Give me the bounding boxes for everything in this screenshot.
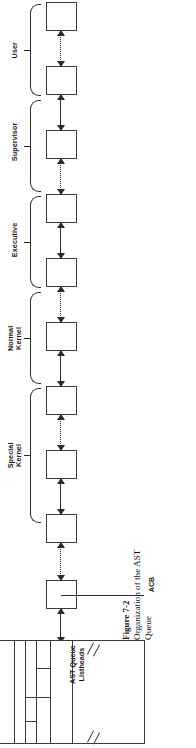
figure-caption-text: Organization of the AST Queue — [132, 532, 154, 640]
arrow-down-icon — [57, 253, 65, 259]
arrow-up-icon — [57, 286, 65, 292]
connector-solid-to-table — [60, 609, 63, 642]
connector-solid — [60, 351, 63, 386]
group-label-user: User — [11, 35, 19, 65]
break-mark-icon — [93, 733, 100, 745]
figure-caption-number: Figure 7-2 — [121, 532, 132, 640]
connector-dotted — [60, 31, 63, 66]
arrow-up-icon — [57, 158, 65, 164]
group-brace-normal-kernel — [30, 292, 41, 384]
group-brace-supervisor — [30, 100, 41, 192]
arrow-up-icon — [57, 478, 65, 484]
acb-node-box — [46, 258, 77, 287]
table-divider — [14, 641, 15, 743]
acb-node-box — [46, 322, 77, 351]
arrow-down-icon — [57, 125, 65, 131]
group-brace-executive — [30, 196, 41, 288]
arrow-up-icon — [57, 94, 65, 100]
table-cell-divider — [25, 721, 36, 722]
break-mark-icon — [87, 643, 94, 655]
arrow-up-icon — [57, 608, 65, 614]
connector-dotted — [60, 543, 63, 580]
arrow-down-icon — [57, 509, 65, 515]
figure-caption: Figure 7-2 Organization of the AST Queue — [121, 532, 151, 640]
connector-solid — [60, 223, 63, 258]
connector-solid — [60, 95, 63, 130]
group-brace-nub — [24, 338, 31, 339]
table-divider — [50, 641, 51, 743]
arrow-down-icon — [57, 575, 65, 581]
connector-solid — [60, 479, 63, 514]
arrow-up-icon — [57, 222, 65, 228]
acb-node-box — [46, 2, 77, 31]
arrow-up-icon — [57, 542, 65, 548]
acb-node-box — [46, 386, 77, 415]
acb-node-box — [46, 194, 77, 223]
arrow-down-icon — [57, 381, 65, 387]
ast-queue-listheads-label: AST Queue Listheads — [69, 629, 86, 701]
table-divider — [36, 641, 37, 743]
acb-node-box — [46, 514, 77, 543]
arrow-down-icon — [57, 61, 65, 67]
break-mark-icon — [93, 645, 100, 657]
group-label-executive: Executive — [11, 227, 19, 257]
table-cell-divider — [25, 697, 50, 698]
table-divider — [25, 641, 26, 743]
figure-ast-queue: User Supervisor Executive Normal Kernel … — [0, 0, 196, 748]
arrow-down-icon — [57, 189, 65, 195]
break-mark-icon — [87, 731, 94, 743]
acb-node-box — [46, 66, 77, 95]
group-brace-user — [30, 4, 41, 96]
arrow-down-icon — [57, 445, 65, 451]
group-label-special-kernel: Special Kernel — [7, 440, 24, 470]
arrow-down-icon — [57, 317, 65, 323]
group-brace-nub — [24, 242, 31, 243]
arrow-up-icon — [57, 30, 65, 36]
connector-dotted — [60, 287, 63, 322]
acb-node-box — [46, 450, 77, 479]
group-brace-nub — [24, 455, 31, 456]
arrow-up-icon — [57, 350, 65, 356]
table-cell-divider — [36, 668, 50, 669]
acb-node-box — [46, 130, 77, 159]
group-label-supervisor: Supervisor — [11, 131, 19, 161]
connector-dotted — [60, 159, 63, 194]
group-label-normal-kernel: Normal Kernel — [7, 323, 24, 353]
group-brace-nub — [24, 146, 31, 147]
group-brace-special-kernel — [30, 388, 41, 523]
arrow-up-icon — [57, 414, 65, 420]
connector-dotted — [60, 415, 63, 450]
group-brace-nub — [24, 50, 31, 51]
